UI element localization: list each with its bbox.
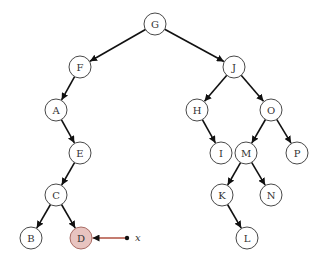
edge-J-H [205, 75, 227, 101]
edge-C-D [62, 205, 76, 229]
pointer-x: x [93, 232, 142, 243]
node-label: M [241, 148, 251, 159]
node-label: A [51, 105, 60, 116]
node-label: N [267, 190, 276, 201]
edge-O-P [277, 119, 291, 143]
node-M: M [235, 142, 257, 164]
node-N: N [260, 184, 282, 206]
node-O: O [260, 99, 282, 121]
node-B: B [20, 227, 42, 249]
node-C: C [45, 184, 67, 206]
node-L: L [236, 227, 258, 249]
node-D: D [70, 227, 92, 249]
edge-H-I [202, 120, 215, 143]
edge-F-A [62, 77, 75, 100]
node-label: E [76, 148, 83, 159]
node-I: I [210, 142, 232, 164]
pointer-label: x [135, 232, 141, 243]
node-E: E [69, 142, 91, 164]
node-label: I [219, 148, 223, 159]
node-A: A [45, 99, 67, 121]
node-label: O [267, 105, 275, 116]
node-F: F [69, 56, 91, 78]
edge-O-M [252, 120, 266, 144]
edge-E-C [62, 163, 75, 185]
node-label: K [218, 190, 226, 201]
pointer-dot [125, 236, 129, 240]
node-label: J [231, 62, 236, 73]
node-label: L [244, 233, 251, 244]
node-label: G [151, 19, 159, 30]
edge-C-B [37, 205, 51, 229]
edge-K-L [228, 205, 242, 229]
node-label: B [27, 233, 34, 244]
edge-M-K [228, 163, 241, 185]
node-label: H [193, 105, 202, 116]
node-label: C [52, 190, 60, 201]
node-J: J [223, 56, 245, 78]
node-H: H [186, 99, 208, 121]
node-P: P [286, 142, 308, 164]
edge-G-F [90, 29, 145, 61]
node-G: G [144, 13, 166, 35]
node-label: F [77, 62, 84, 73]
edge-G-J [165, 29, 224, 61]
node-K: K [211, 184, 233, 206]
edge-M-N [252, 162, 265, 185]
edge-J-O [241, 75, 263, 101]
node-label: P [294, 148, 301, 159]
binary-tree-diagram: x GFAECBDJHOIMPKNL [0, 0, 321, 266]
tree-nodes: GFAECBDJHOIMPKNL [20, 13, 308, 249]
node-label: D [77, 233, 85, 244]
edge-A-E [61, 120, 74, 143]
